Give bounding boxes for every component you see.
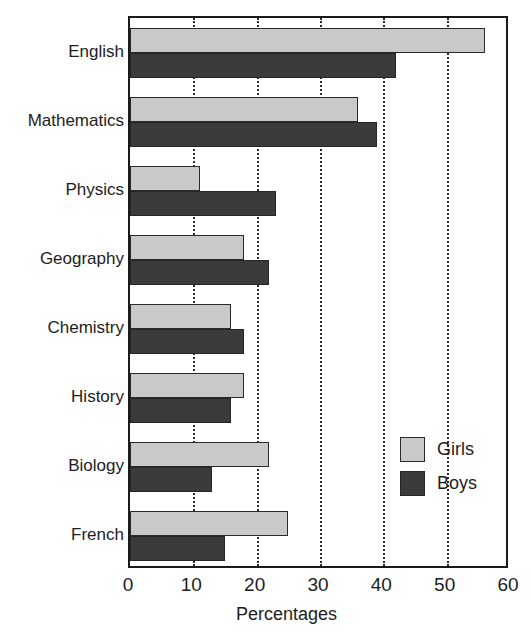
legend-label-boys: Boys [437, 473, 477, 494]
x-tick-0: 0 [123, 574, 134, 596]
category-label-history: History [0, 388, 124, 405]
bar-french-girls [130, 511, 288, 536]
bar-physics-girls [130, 166, 200, 191]
x-tick-60: 60 [497, 574, 518, 596]
legend-swatch-girls [400, 437, 425, 462]
bar-geography-girls [130, 235, 244, 260]
x-tick-40: 40 [371, 574, 392, 596]
x-tick-30: 30 [307, 574, 328, 596]
category-label-biology: Biology [0, 457, 124, 474]
bar-biology-boys [130, 467, 212, 492]
bar-chart: English Mathematics Physics Geography Ch… [0, 0, 531, 643]
bar-mathematics-boys [130, 122, 377, 147]
x-tick-20: 20 [244, 574, 265, 596]
category-label-physics: Physics [0, 181, 124, 198]
bar-geography-boys [130, 260, 269, 285]
bar-english-girls [130, 28, 485, 53]
legend-label-girls: Girls [437, 439, 474, 460]
category-label-geography: Geography [0, 250, 124, 267]
bar-english-boys [130, 53, 396, 78]
category-label-french: French [0, 526, 124, 543]
legend: Girls Boys [400, 432, 510, 500]
x-tick-10: 10 [181, 574, 202, 596]
bar-chemistry-girls [130, 304, 231, 329]
bar-physics-boys [130, 191, 276, 216]
bar-history-girls [130, 373, 244, 398]
legend-item-boys: Boys [400, 466, 510, 500]
bar-french-boys [130, 536, 225, 561]
bar-chemistry-boys [130, 329, 244, 354]
category-axis-labels: English Mathematics Physics Geography Ch… [0, 0, 124, 643]
legend-swatch-boys [400, 471, 425, 496]
x-axis-title-text: Percentages [236, 604, 337, 625]
bar-mathematics-girls [130, 97, 358, 122]
bar-biology-girls [130, 442, 269, 467]
category-label-chemistry: Chemistry [0, 319, 124, 336]
x-axis-title: Percentages [0, 604, 531, 625]
x-axis-tick-labels: 0102030405060 [128, 574, 508, 598]
category-label-english: English [0, 43, 124, 60]
x-tick-50: 50 [434, 574, 455, 596]
bar-history-boys [130, 398, 231, 423]
category-label-mathematics: Mathematics [0, 112, 124, 129]
legend-item-girls: Girls [400, 432, 510, 466]
